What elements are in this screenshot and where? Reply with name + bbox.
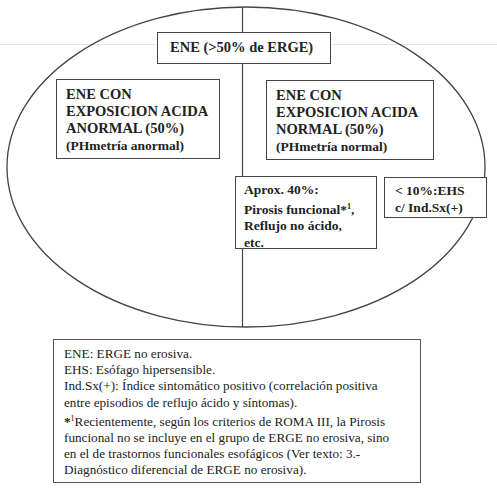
legend-line-ehs: EHS: Esófago hipersensible. <box>64 362 420 378</box>
abnormal-acid-exposure-box: ENE CON EXPOSICION ACIDA ANORMAL (50%) (… <box>56 79 220 159</box>
aprox-box-line2: Pirosis funcional* <box>244 202 347 217</box>
ehs-box-line2: c/ Ind.Sx(+) <box>395 200 486 217</box>
normal-acid-exposure-box: ENE CON EXPOSICION ACIDA NORMAL (50%) (P… <box>266 80 434 160</box>
ehs-box-line1: < 10%:EHS <box>395 183 486 200</box>
aprox-box-line2-end: , <box>351 202 354 217</box>
legend-line-footnote-3: en el de trastornos funcionales esofágic… <box>64 446 420 462</box>
legend-line-footnote: Recientemente, según los criterios de RO… <box>75 414 386 429</box>
normal-box-line3: NORMAL (50%) <box>276 121 433 138</box>
abnormal-box-line1: ENE CON <box>66 86 219 103</box>
normal-box-line4: (PHmetría normal) <box>276 138 433 155</box>
legend-line-indsx: Ind.Sx(+): Índice sintomático positivo (… <box>64 378 420 394</box>
normal-box-line1: ENE CON <box>276 87 433 104</box>
aprox-box-line4: etc. <box>244 235 376 252</box>
abnormal-box-line3: ANORMAL (50%) <box>66 120 219 137</box>
aprox-box-line3: Reflujo no ácido, <box>244 218 376 235</box>
aprox-box-line2-wrap: Pirosis funcional*1, <box>244 199 376 219</box>
legend-line-footnote-4: Diagnóstico diferencial de ERGE no erosi… <box>64 462 420 478</box>
abnormal-box-line4: (PHmetría anormal) <box>66 137 219 154</box>
ene-root-label: ENE (>50% de ERGE) <box>170 39 313 55</box>
legend-line-ene: ENE: ERGE no erosiva. <box>64 346 420 362</box>
ene-root-box: ENE (>50% de ERGE) <box>157 32 331 64</box>
legend-box: ENE: ERGE no erosiva. EHS: Esófago hiper… <box>53 339 421 483</box>
aprox-box-line1: Aprox. 40%: <box>244 182 376 199</box>
hypersensitive-esophagus-box: < 10%:EHS c/ Ind.Sx(+) <box>384 177 487 218</box>
normal-box-line2: EXPOSICION ACIDA <box>276 104 433 121</box>
functional-heartburn-box: Aprox. 40%: Pirosis funcional*1, Reflujo… <box>235 176 377 249</box>
legend-line-footnote-2: funcional no se incluye en el grupo de E… <box>64 430 420 446</box>
legend-line-indsx-cont: entre episodios de reflujo ácido y sínto… <box>64 395 420 411</box>
abnormal-box-line2: EXPOSICION ACIDA <box>66 103 219 120</box>
legend-line-footnote-wrap: *1Recientemente, según los criterios de … <box>64 411 420 430</box>
footnote-marker: * <box>64 414 71 429</box>
